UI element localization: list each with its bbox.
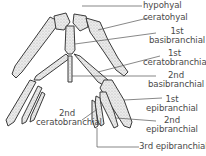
left-first-ceratobranchial [34, 54, 70, 80]
label-3rd-epibranchial: 3rd epibranchial [139, 142, 206, 151]
right-hypohyal [73, 14, 88, 31]
label-2nd-basibranchial: 2nd basibranchial [146, 71, 206, 89]
second-basibranchial [68, 56, 72, 82]
label-ceratohyal: ceratohyal [143, 13, 188, 22]
label-2nd-epibranchial: 2nd epibranchial [142, 116, 202, 134]
label-1st-epibranchial: 1st epibranchial [142, 95, 202, 113]
hyobranchial-diagram: hypohyal ceratohyal 1st basibranchial 1s… [0, 0, 206, 156]
label-2nd-ceratobranchial: 2nd ceratobranchial [36, 109, 98, 127]
leader-3rd-epibranchial [97, 128, 139, 147]
leader-1st-basibranchial [75, 33, 156, 44]
label-1st-ceratobranchial: 1st ceratobranchial [143, 49, 206, 67]
label-1st-basibranchial: 1st basibranchial [148, 27, 206, 45]
label-hypohyal: hypohyal [143, 1, 182, 10]
leader-ceratohyal [98, 18, 148, 30]
first-basibranchial [65, 26, 75, 54]
